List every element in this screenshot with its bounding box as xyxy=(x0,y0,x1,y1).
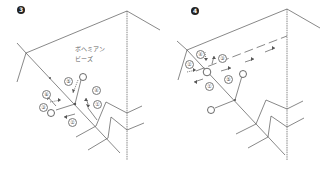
bead-label-line2: ビーズ xyxy=(75,55,93,62)
step-3-marker: ③ xyxy=(218,54,227,63)
step-4-marker: ④ xyxy=(92,86,101,95)
step-1-marker: ① xyxy=(93,100,102,109)
step-4-marker: ④ xyxy=(196,50,205,59)
bead-label: ボヘミアン xyxy=(75,45,105,52)
step-6-marker: ⑥ xyxy=(42,90,51,99)
step-2-marker: ② xyxy=(68,118,77,127)
step-3-marker: ③ xyxy=(39,103,48,112)
diagram-panel-step-4: 4 xyxy=(160,0,323,180)
diagram-lines xyxy=(160,0,323,180)
diagram-lines xyxy=(0,0,160,180)
step-5-marker: ⑤ xyxy=(64,77,73,86)
step-5-marker: ⑤ xyxy=(224,75,233,84)
step-2-marker: ② xyxy=(185,60,194,69)
step-1-marker: ① xyxy=(205,82,214,91)
diagram-panel-step-3: 3 xyxy=(0,0,160,180)
